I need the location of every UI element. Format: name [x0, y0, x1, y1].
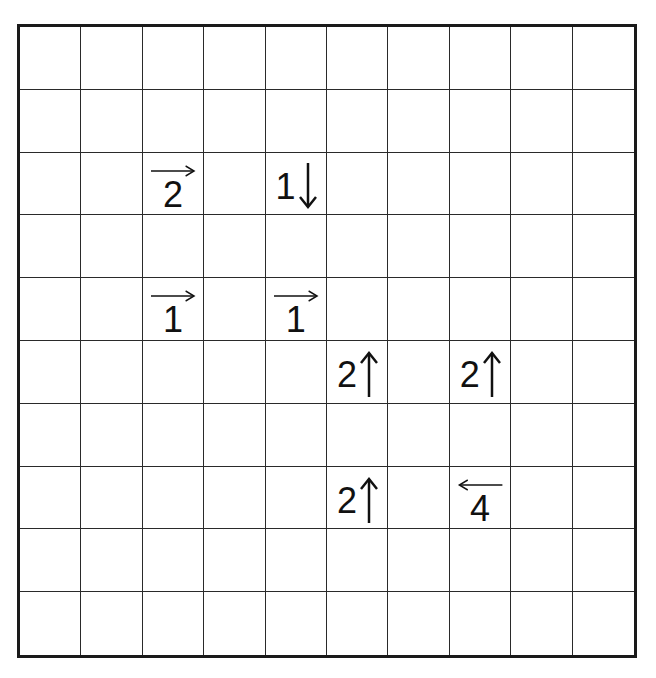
grid-cell[interactable]	[81, 529, 142, 592]
grid-cell[interactable]	[204, 27, 265, 90]
grid-cell[interactable]	[573, 215, 634, 278]
grid-cell[interactable]	[204, 90, 265, 153]
grid-cell[interactable]	[204, 215, 265, 278]
grid-cell[interactable]	[20, 27, 81, 90]
grid-cell[interactable]	[388, 153, 449, 216]
grid-cell[interactable]	[143, 341, 204, 404]
grid-cell[interactable]	[388, 529, 449, 592]
grid-cell[interactable]	[204, 153, 265, 216]
grid-cell[interactable]	[20, 215, 81, 278]
clue-cell[interactable]: 2	[327, 341, 388, 404]
grid-cell[interactable]	[388, 215, 449, 278]
grid-cell[interactable]	[511, 404, 572, 467]
grid-cell[interactable]	[388, 341, 449, 404]
grid-cell[interactable]	[204, 467, 265, 530]
grid-cell[interactable]	[511, 467, 572, 530]
grid-cell[interactable]	[327, 215, 388, 278]
grid-cell[interactable]	[511, 529, 572, 592]
grid-cell[interactable]	[327, 529, 388, 592]
grid-cell[interactable]	[511, 27, 572, 90]
grid-cell[interactable]	[81, 278, 142, 341]
grid-cell[interactable]	[450, 592, 511, 655]
grid-cell[interactable]	[143, 404, 204, 467]
grid-cell[interactable]	[388, 592, 449, 655]
clue-cell[interactable]: 1	[143, 278, 204, 341]
grid-cell[interactable]	[20, 467, 81, 530]
grid-cell[interactable]	[450, 404, 511, 467]
grid-cell[interactable]	[266, 467, 327, 530]
grid-cell[interactable]	[204, 529, 265, 592]
grid-cell[interactable]	[20, 90, 81, 153]
grid-cell[interactable]	[266, 404, 327, 467]
grid-cell[interactable]	[450, 90, 511, 153]
grid-cell[interactable]	[511, 90, 572, 153]
grid-cell[interactable]	[20, 529, 81, 592]
grid-cell[interactable]	[511, 341, 572, 404]
grid-cell[interactable]	[327, 278, 388, 341]
grid-cell[interactable]	[327, 153, 388, 216]
clue-cell[interactable]: 1	[266, 153, 327, 216]
grid-cell[interactable]	[450, 529, 511, 592]
grid-cell[interactable]	[511, 592, 572, 655]
grid-cell[interactable]	[81, 592, 142, 655]
grid-cell[interactable]	[20, 341, 81, 404]
grid-cell[interactable]	[573, 90, 634, 153]
grid-cell[interactable]	[388, 27, 449, 90]
grid-cell[interactable]	[266, 90, 327, 153]
grid-cell[interactable]	[81, 404, 142, 467]
grid-cell[interactable]	[327, 90, 388, 153]
grid-cell[interactable]	[20, 153, 81, 216]
clue-cell[interactable]: 2	[143, 153, 204, 216]
grid-cell[interactable]	[450, 278, 511, 341]
grid-cell[interactable]	[143, 592, 204, 655]
grid-cell[interactable]	[143, 529, 204, 592]
grid-cell[interactable]	[573, 467, 634, 530]
grid-cell[interactable]	[81, 341, 142, 404]
clue-cell[interactable]: 2	[327, 467, 388, 530]
clue-cell[interactable]: 2	[450, 341, 511, 404]
grid-cell[interactable]	[266, 215, 327, 278]
grid-cell[interactable]	[511, 215, 572, 278]
grid-cell[interactable]	[81, 215, 142, 278]
grid-cell[interactable]	[388, 467, 449, 530]
clue-cell[interactable]: 1	[266, 278, 327, 341]
grid-cell[interactable]	[388, 90, 449, 153]
grid-cell[interactable]	[143, 27, 204, 90]
grid-cell[interactable]	[143, 215, 204, 278]
grid-cell[interactable]	[573, 278, 634, 341]
grid-cell[interactable]	[450, 215, 511, 278]
grid-cell[interactable]	[143, 467, 204, 530]
grid-cell[interactable]	[573, 341, 634, 404]
grid-cell[interactable]	[573, 153, 634, 216]
grid-cell[interactable]	[327, 592, 388, 655]
grid-cell[interactable]	[204, 341, 265, 404]
grid-cell[interactable]	[81, 90, 142, 153]
grid-cell[interactable]	[266, 341, 327, 404]
grid-cell[interactable]	[266, 592, 327, 655]
grid-cell[interactable]	[81, 27, 142, 90]
grid-cell[interactable]	[81, 467, 142, 530]
clue-cell[interactable]: 4	[450, 467, 511, 530]
grid-cell[interactable]	[204, 592, 265, 655]
grid-cell[interactable]	[573, 27, 634, 90]
grid-cell[interactable]	[20, 592, 81, 655]
grid-cell[interactable]	[450, 27, 511, 90]
grid-cell[interactable]	[573, 592, 634, 655]
grid-cell[interactable]	[20, 404, 81, 467]
grid-cell[interactable]	[327, 27, 388, 90]
grid-cell[interactable]	[20, 278, 81, 341]
grid-cell[interactable]	[511, 153, 572, 216]
grid-cell[interactable]	[388, 404, 449, 467]
grid-cell[interactable]	[81, 153, 142, 216]
grid-cell[interactable]	[204, 404, 265, 467]
grid-cell[interactable]	[266, 529, 327, 592]
grid-cell[interactable]	[266, 27, 327, 90]
grid-cell[interactable]	[573, 529, 634, 592]
grid-cell[interactable]	[450, 153, 511, 216]
grid-cell[interactable]	[327, 404, 388, 467]
grid-cell[interactable]	[388, 278, 449, 341]
grid-cell[interactable]	[143, 90, 204, 153]
grid-cell[interactable]	[573, 404, 634, 467]
grid-cell[interactable]	[204, 278, 265, 341]
grid-cell[interactable]	[511, 278, 572, 341]
